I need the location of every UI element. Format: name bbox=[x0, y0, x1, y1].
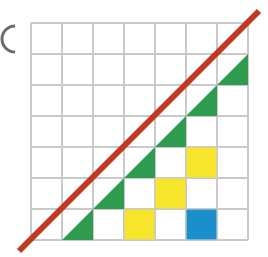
blue-cell-square bbox=[187, 210, 217, 240]
yellow-cell-square bbox=[156, 179, 186, 209]
figure-container bbox=[0, 0, 268, 257]
yellow-cell-square bbox=[187, 148, 217, 178]
yellow-cell-square bbox=[125, 210, 155, 240]
grid-diagram-svg bbox=[0, 0, 268, 257]
